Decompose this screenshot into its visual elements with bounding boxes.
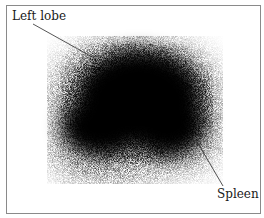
scan-frame xyxy=(6,5,261,214)
left-lobe-label: Left lobe xyxy=(12,10,66,22)
spleen-label: Spleen xyxy=(217,188,259,200)
uptake-speckle xyxy=(61,44,213,164)
scan-image xyxy=(7,6,260,213)
